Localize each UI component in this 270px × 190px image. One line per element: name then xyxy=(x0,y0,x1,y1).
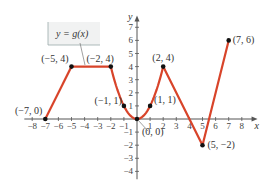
point-label: (1, 1) xyxy=(154,94,176,106)
x-tick-label: −3 xyxy=(93,121,103,131)
x-tick-label: −6 xyxy=(54,121,64,131)
y-tick-label: 4 xyxy=(129,62,134,72)
point-label: (7, 6) xyxy=(233,34,255,46)
data-point xyxy=(148,104,153,109)
function-label: y = g(x) xyxy=(55,28,89,40)
x-axis-label: x xyxy=(254,120,260,131)
data-point xyxy=(161,64,166,69)
x-tick-label: 3 xyxy=(174,121,179,131)
y-axis-label: y xyxy=(127,11,133,22)
point-label: (5, −2) xyxy=(208,139,235,151)
curve-segment xyxy=(163,67,202,146)
x-tick-label: −5 xyxy=(67,121,77,131)
y-tick-label: 1 xyxy=(129,101,134,111)
x-tick-label: −7 xyxy=(41,121,51,131)
y-tick-label: 5 xyxy=(129,49,134,59)
y-tick-label: 2 xyxy=(129,88,134,98)
data-point xyxy=(200,143,205,148)
label-leader-line xyxy=(80,43,85,65)
data-point xyxy=(69,64,74,69)
y-tick-label: 3 xyxy=(129,75,134,85)
x-tick-label: −8 xyxy=(27,121,37,131)
point-label: (−2, 4) xyxy=(86,53,113,65)
y-tick-label: −3 xyxy=(123,153,133,163)
y-tick-label: 6 xyxy=(129,35,134,45)
point-label: (−7, 0) xyxy=(15,105,42,117)
function-graph: −8−7−6−5−4−3−2−112345678−4−3−2−11234567x… xyxy=(0,0,270,190)
x-tick-label: 6 xyxy=(213,121,218,131)
x-tick-label: −2 xyxy=(106,121,116,131)
y-tick-label: −4 xyxy=(123,166,133,176)
x-tick-label: 8 xyxy=(240,121,245,131)
point-label: (−5, 4) xyxy=(41,53,68,65)
curve-segment xyxy=(45,67,71,119)
data-point xyxy=(226,38,231,43)
x-tick-label: 7 xyxy=(226,121,231,131)
x-tick-label: 5 xyxy=(200,121,205,131)
y-axis-arrow-icon xyxy=(135,15,140,21)
data-point xyxy=(109,64,114,69)
x-tick-label: −4 xyxy=(80,121,90,131)
labeled-points: (−7, 0)(−5, 4)(−2, 4)(−1, 1)(0, 0)(1, 1)… xyxy=(15,34,254,151)
y-tick-label: −2 xyxy=(123,140,133,150)
y-tick-label: −1 xyxy=(123,127,133,137)
point-label: (−1, 1) xyxy=(95,95,122,107)
point-label: (2, 4) xyxy=(152,52,174,64)
data-point xyxy=(43,117,48,122)
y-tick-label: 7 xyxy=(129,22,134,32)
data-point xyxy=(122,104,127,109)
